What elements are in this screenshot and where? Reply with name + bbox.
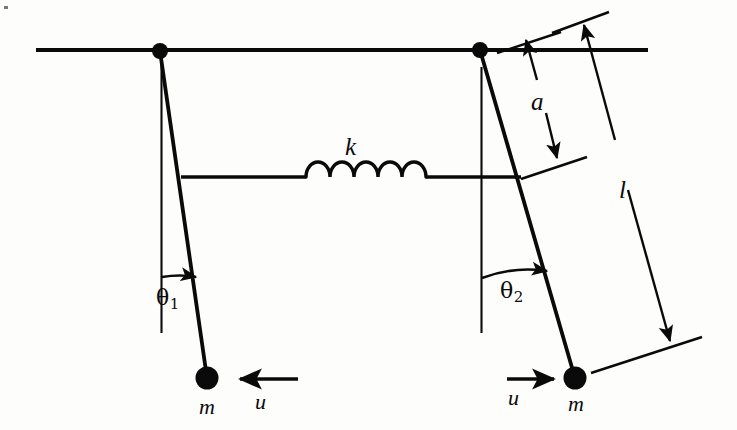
pendulum-rod-left [160,51,207,378]
theta1-symbol: θ [156,285,169,310]
dimension-line-a-lower [546,113,557,158]
pendulum-rod-right [480,50,575,378]
physics-diagram-canvas: k a l m m u u θ1 θ2 [0,0,737,430]
angle-arc-left [162,276,196,278]
extension-tick-l-bottom [591,337,702,373]
theta2-symbol: θ [500,278,513,303]
diagram-svg [0,0,737,430]
dimension-line-a-upper [526,40,537,80]
mass-right-label: m [568,393,584,415]
pivot-left [152,43,168,59]
spring-coil [306,162,426,177]
mass-left-label: m [199,396,215,418]
angle-arc-right [482,270,547,278]
pivot-right [472,42,488,58]
theta2-subscript: 2 [514,288,524,306]
bob-left [196,367,219,390]
extension-tick-a-bottom [521,157,587,179]
length-l-label: l [619,177,626,202]
velocity-left-label: u [255,391,266,413]
angle-theta2-label: θ2 [500,280,523,305]
bob-right [564,367,587,390]
theta1-subscript: 1 [170,295,180,313]
angle-theta1-label: θ1 [156,287,179,312]
distance-a-label: a [531,89,544,114]
velocity-right-label: u [508,387,519,409]
spring-constant-label: k [345,134,356,159]
extension-tick-l-top [552,12,609,33]
dimension-line-l-upper [584,25,615,140]
dimension-line-l-lower [628,190,670,341]
